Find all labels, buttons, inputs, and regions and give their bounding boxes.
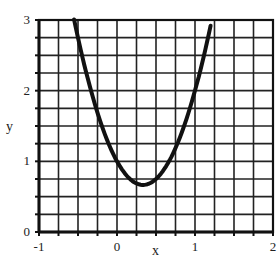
grid [39, 20, 273, 232]
axes [35, 20, 273, 236]
x-tick-label: 0 [114, 239, 121, 254]
y-axis-label: y [6, 119, 13, 134]
y-tick-label: 3 [24, 12, 31, 27]
x-tick-label: 1 [192, 239, 199, 254]
y-tick-label: 2 [24, 83, 31, 98]
x-tick-label: 2 [270, 239, 277, 254]
series-line [74, 20, 211, 185]
series [74, 20, 211, 185]
y-tick-label: 1 [24, 153, 31, 168]
x-tick-label: -1 [34, 239, 45, 254]
tick-labels: -10120123 [24, 12, 277, 254]
chart: -10120123 x y [0, 0, 280, 266]
y-tick-label: 0 [24, 224, 31, 239]
x-axis-label: x [152, 243, 159, 258]
